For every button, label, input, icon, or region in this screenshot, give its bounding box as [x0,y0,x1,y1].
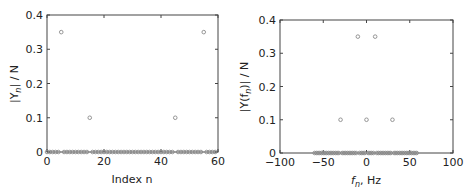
left-data-point [202,30,206,34]
left-y-tick-label: 0.4 [26,9,44,22]
right-y-tick-label: 0.1 [259,114,277,127]
right-data-point [365,118,369,122]
right-data-point [373,35,377,39]
left-x-tick-label: 0 [44,155,51,168]
chart-canvas: 020406000.10.20.30.4 −100−5005010000.10.… [0,0,465,192]
right-x-tick-label: 100 [443,156,464,169]
right-x-tick-label: 0 [363,156,370,169]
right-y-tick-label: 0.2 [259,81,277,94]
left-y-tick-label: 0.2 [26,78,44,91]
right-x-axis-label: fn, Hz [351,174,381,189]
left-y-tick-label: 0.3 [26,43,44,56]
left-x-tick-label: 60 [211,155,225,168]
right-y-tick-label: 0.3 [259,47,277,60]
left-data-point [59,30,63,34]
left-x-axis-label: Index n [112,173,153,186]
right-x-tick-label: −50 [312,156,335,169]
right-data-point [339,118,343,122]
left-data-point [88,116,92,120]
left-x-tick-label: 20 [97,155,111,168]
right-data-point [391,118,395,122]
left-y-tick-label: 0.1 [26,112,44,125]
right-y-tick-label: 0.4 [259,14,277,27]
plot-magnitude-vs-frequency: −100−5005010000.10.20.30.4 [259,14,464,169]
right-y-tick-label: 0 [269,147,276,160]
right-y-axis-label: |Y(fn)| / N [238,62,253,113]
right-data-point [356,35,360,39]
left-plot-frame [47,15,218,152]
left-y-tick-label: 0 [36,146,43,159]
left-y-axis-label: |Yn| / N [8,65,23,103]
left-x-tick-label: 40 [154,155,168,168]
plot-magnitude-vs-index: 020406000.10.20.30.4 [26,9,226,168]
left-data-point [173,116,177,120]
right-x-tick-label: 50 [403,156,417,169]
right-plot-frame [280,20,453,153]
